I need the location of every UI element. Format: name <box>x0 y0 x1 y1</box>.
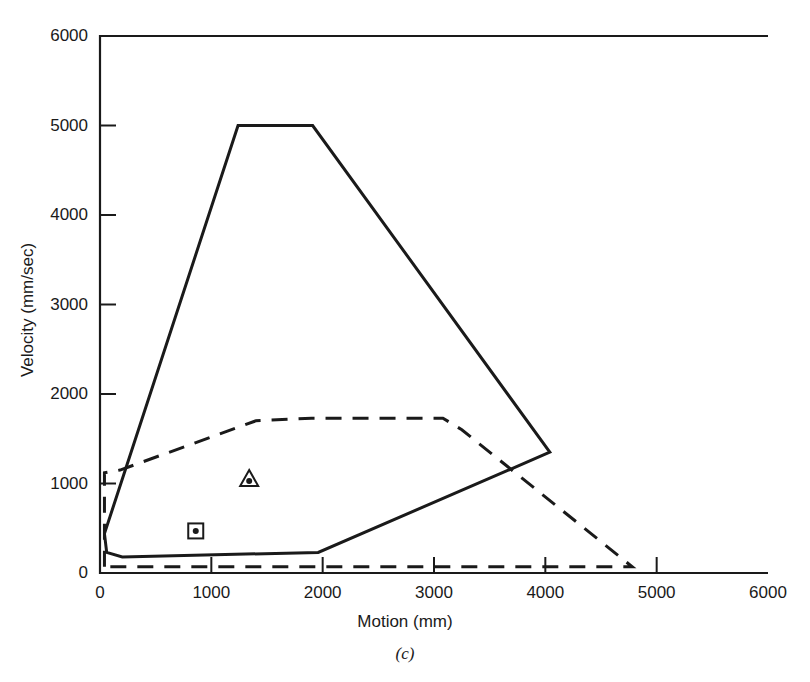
x-axis-ticks <box>211 557 656 573</box>
y-axis-ticks <box>100 126 116 484</box>
data-markers-group <box>188 470 258 538</box>
y-tick-label: 5000 <box>0 116 88 136</box>
x-tick-label: 5000 <box>638 583 676 603</box>
series-solid-envelope <box>104 126 549 557</box>
series-dashed-envelope <box>104 418 632 567</box>
y-tick-label: 0 <box>0 563 88 583</box>
x-tick-label: 6000 <box>749 583 787 603</box>
y-tick-label: 6000 <box>0 26 88 46</box>
x-tick-label: 0 <box>95 583 104 603</box>
x-tick-label: 1000 <box>192 583 230 603</box>
x-axis-title: Motion (mm) <box>0 612 810 632</box>
axis-frame <box>100 36 768 573</box>
square-dot-marker <box>188 523 203 538</box>
y-tick-label: 4000 <box>0 205 88 225</box>
x-tick-label: 4000 <box>526 583 564 603</box>
y-tick-label: 3000 <box>0 295 88 315</box>
y-tick-label: 1000 <box>0 474 88 494</box>
plot-axes <box>100 36 768 573</box>
data-series-group <box>104 126 632 567</box>
y-tick-label: 2000 <box>0 384 88 404</box>
figure-container: 0100020003000400050006000 01000200030004… <box>0 0 810 682</box>
center-dot-icon <box>193 528 199 534</box>
x-tick-label: 2000 <box>304 583 342 603</box>
chart-canvas <box>0 0 810 682</box>
x-tick-label: 3000 <box>415 583 453 603</box>
y-axis-title: Velocity (mm/sec) <box>18 200 38 420</box>
figure-caption: (c) <box>0 644 810 664</box>
triangle-dot-marker <box>240 470 258 486</box>
center-dot-icon <box>246 478 252 484</box>
